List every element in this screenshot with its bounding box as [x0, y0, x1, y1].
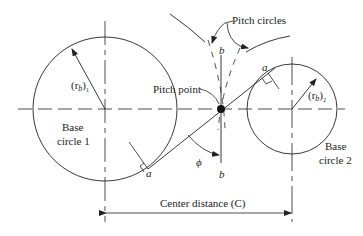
- pitch-circles-leader: [212, 21, 233, 43]
- pitch-circle-1-arc: [170, 14, 205, 42]
- pitch-point-label: Pitch point: [153, 83, 201, 95]
- tangent-point-a-upper: a: [262, 61, 268, 73]
- base-circle-2-label-line2: circle 2: [319, 154, 352, 166]
- base-circle-1-label-line1: Base: [62, 121, 84, 133]
- pressure-angle-arc: [188, 135, 219, 155]
- line-b-bottom-label: b: [219, 168, 225, 180]
- diagram-canvas: Pitch circles Pitch point (rb)1 (rb)2 Ba…: [0, 0, 363, 236]
- right-angle-mark-2: [262, 78, 272, 84]
- radius-2-label: (rb)2: [308, 89, 326, 103]
- normal-line-1: [129, 142, 148, 169]
- tangent-point-a-lower: a: [146, 167, 152, 179]
- base-circle-2-label-line1: Base: [325, 140, 347, 152]
- normal-line-2: [268, 73, 279, 89]
- pressure-angle-label: ϕ: [196, 156, 202, 168]
- base-circle-1-label-line2: circle 1: [57, 135, 90, 147]
- gear-base-circle-diagram: Pitch circles Pitch point (rb)1 (rb)2 Ba…: [0, 0, 363, 236]
- pitch-point-leader: [200, 89, 219, 104]
- pitch-circle-2-arc: [246, 36, 290, 52]
- pitch-circles-label: Pitch circles: [232, 14, 286, 26]
- radius-1-label: (rb)1: [71, 79, 89, 93]
- pitch-point-dot: [217, 105, 225, 113]
- pitch-circles-leader-2: [227, 23, 248, 48]
- line-b-top-label: b: [219, 44, 225, 56]
- center-distance-label: Center distance (C): [160, 197, 246, 210]
